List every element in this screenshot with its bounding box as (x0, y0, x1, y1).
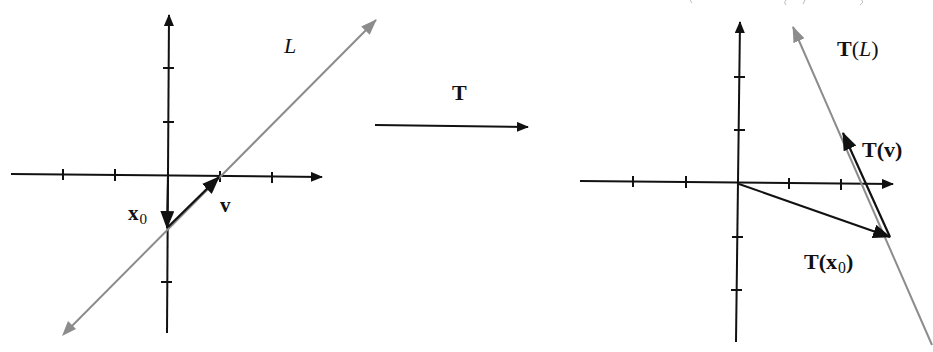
label-x0-sub: 0 (140, 211, 148, 227)
label-v-text: v (220, 193, 231, 217)
vector-Tx0 (739, 184, 890, 237)
label-Tx0: T(x0) (804, 251, 853, 273)
linear-transformation-diagram: L x0 v T T(L) T(v) T(x0) (0, 0, 933, 352)
left-y-axis (167, 15, 169, 333)
label-TL-open: ( (852, 36, 859, 61)
cropped-text-fragments (690, 0, 863, 5)
label-Tx0-close: ) (846, 249, 853, 274)
label-Tv-text: T(v) (862, 137, 902, 162)
label-L-text: L (284, 33, 296, 58)
label-v: v (220, 195, 231, 216)
label-Tx0-base: T(x (804, 249, 837, 274)
label-x0: x0 (128, 203, 147, 224)
label-transform-T-text: T (452, 80, 467, 105)
label-TL: T(L) (837, 38, 879, 60)
vector-v (168, 177, 219, 227)
label-x0-base: x (128, 201, 139, 225)
vector-x0 (167, 176, 168, 228)
label-TL-close: ) (871, 36, 878, 61)
right-coordinate-axes (580, 22, 893, 342)
label-transform-T: T (452, 82, 467, 104)
left-x-axis (11, 174, 322, 177)
diagram-graphics (0, 0, 933, 352)
label-Tv: T(v) (862, 139, 902, 161)
transform-arrow (375, 125, 528, 127)
left-coordinate-axes (11, 15, 322, 333)
line-L (65, 20, 376, 333)
label-L: L (284, 35, 296, 57)
label-TL-T: T (837, 36, 852, 61)
right-x-axis (580, 181, 893, 184)
label-TL-L: L (859, 36, 871, 61)
label-Tx0-sub: 0 (838, 259, 846, 276)
line-TL (793, 27, 932, 345)
